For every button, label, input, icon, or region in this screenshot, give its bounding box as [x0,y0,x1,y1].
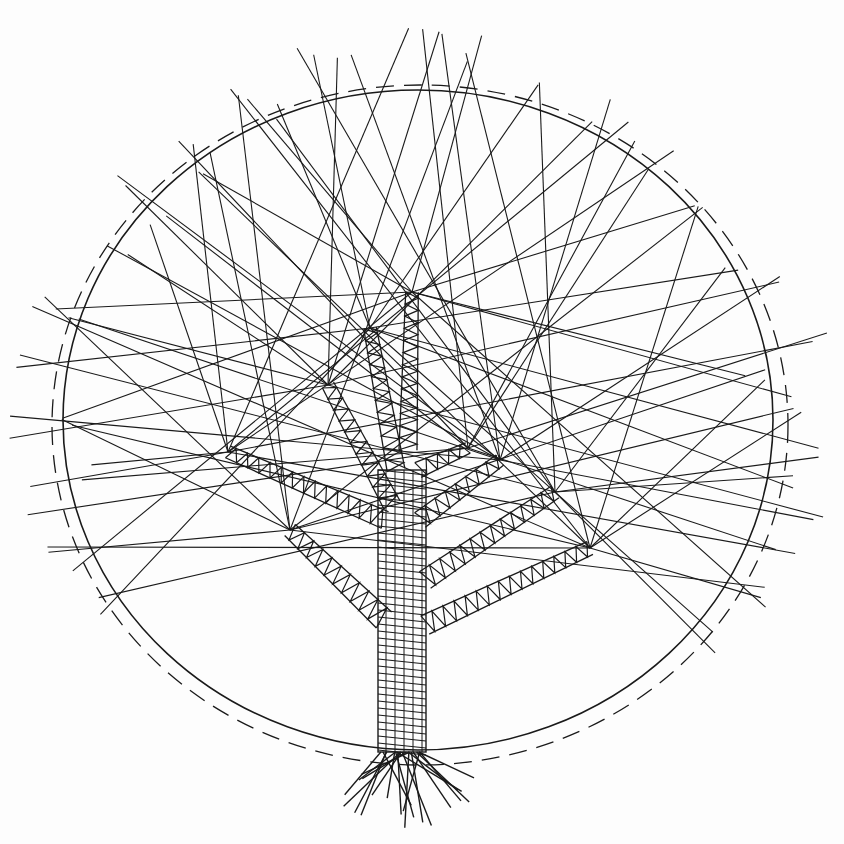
ray-line [193,144,228,452]
trunk-stitch [378,631,426,636]
trunk-stitch [378,743,426,748]
trunk-stitch [378,694,426,699]
ray-line [91,452,228,465]
ray-line [555,476,793,492]
root-line [398,752,401,814]
ray-line [370,270,738,328]
trunk-stitch [378,701,426,706]
ray-line [128,255,328,385]
trunk-stitch [378,582,426,587]
branch-stitching [415,455,499,523]
ray-line [500,277,780,460]
trunk-stitch [378,722,426,727]
ray-line [370,328,793,488]
ray-line [500,99,610,460]
trunk-stitch [378,687,426,692]
ray-line [590,548,761,598]
ray-line [99,492,555,598]
trunk-stitch [378,617,426,622]
trunk-stitch [378,638,426,643]
trunk-stitch [378,736,426,741]
root-line [417,752,470,802]
trunk-stitch [378,533,426,538]
trunk-stitch [378,715,426,720]
ray-line [555,457,819,492]
trunk-stitch [378,708,426,713]
trunk-stitch [378,645,426,650]
trunk-stitch [378,561,426,566]
trunk-stitch [378,729,426,734]
trunk-stitch [378,519,426,524]
trunk-stitch [378,568,426,573]
trunk-stitch [378,589,426,594]
ray-line [30,452,228,487]
branch-edge [285,536,377,628]
ray-line [16,328,370,367]
trunk-stitch [378,652,426,657]
ray-line [555,492,715,653]
trunk-stitch [378,673,426,678]
trunk-stitch [378,554,426,559]
ray-line [412,206,695,292]
root-line [355,752,387,813]
tree-illustration [0,0,844,844]
branch-edge [295,524,391,612]
ray-line [228,452,795,553]
ray-line [47,547,590,548]
trunk-stitch [378,540,426,545]
trunk-stitch [378,680,426,685]
ray-line [150,225,228,452]
ray-line [555,268,725,492]
trunk-stitch [378,666,426,671]
ray-line [126,186,328,385]
trunk-stitch [378,526,426,531]
ray-line [314,55,370,328]
trunk-stitch [378,624,426,629]
root-line [420,752,461,801]
trunk-stitch [378,659,426,664]
tree-drawing [0,0,844,844]
trunk-stitch [378,596,426,601]
ray-line [72,425,590,548]
trunk-stitch [378,477,426,482]
ray-line [45,297,290,530]
trunk-stitch [378,575,426,580]
ray-line [351,55,500,460]
ray-line [228,342,813,452]
ray-line [297,48,555,492]
ray-line [69,318,328,385]
ray-line [328,122,592,385]
